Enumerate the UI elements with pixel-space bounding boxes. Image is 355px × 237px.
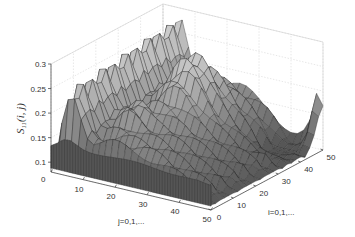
x-tick-label: 10	[75, 185, 84, 194]
y-tick-label: 10	[237, 201, 246, 210]
z-tick-label: 0.2	[35, 109, 47, 118]
y-tick-label: 40	[304, 165, 313, 174]
x-tick-label: 30	[139, 200, 148, 209]
surface-plot: 0.10.150.20.250.3102030405001020304050 j…	[0, 0, 355, 237]
z-tick-label: 0.3	[35, 60, 47, 69]
z-tick-label: 0.15	[30, 134, 46, 143]
x-tick-label: 50	[203, 215, 212, 224]
x-tick-label: 20	[107, 192, 116, 201]
z-tick-label: 0.1	[35, 158, 47, 167]
x-axis-label: j=0,1,...	[117, 217, 144, 226]
z-tick-label: 0.25	[30, 85, 46, 94]
y-tick-label: 50	[327, 153, 336, 162]
z-axis-label: S11(i, j)	[14, 103, 28, 134]
y-tick-label: 30	[282, 177, 291, 186]
y-tick-label: 0	[217, 213, 222, 222]
y-tick-label: 20	[259, 189, 268, 198]
x-tick-label: 40	[171, 207, 180, 216]
y-axis-label: i=0,1,...	[268, 208, 294, 217]
z-zero-label: 0	[41, 175, 46, 184]
